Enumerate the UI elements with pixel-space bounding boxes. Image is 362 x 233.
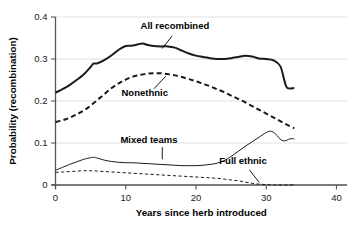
axis-titles-group: Years since herb introducedProbability (…	[7, 37, 267, 218]
y-tick-label-0_2: 0.2	[34, 95, 47, 106]
x-axis-title: Years since herb introduced	[136, 207, 267, 218]
y-tick-label-0_3: 0.3	[34, 53, 47, 64]
x-tick-label-30: 30	[261, 192, 272, 203]
x-tick-label-10: 10	[120, 192, 131, 203]
series-label-mixed-teams: Mixed teams	[120, 134, 177, 145]
tick-labels-group: 00.10.20.30.4010203040	[34, 11, 341, 202]
y-tick-label-0: 0	[42, 179, 47, 190]
y-axis-title: Probability (recombination)	[7, 37, 18, 164]
y-tick-label-0_4: 0.4	[34, 11, 47, 22]
recombination-probability-chart: 00.10.20.30.4010203040 All recombinedNon…	[0, 0, 362, 233]
gridlines-group	[56, 17, 348, 185]
series-label-nonethnic: Nonethnic	[121, 87, 167, 98]
leader-line-full-ethnic	[249, 170, 259, 183]
x-tick-label-40: 40	[331, 192, 342, 203]
series-label-full-ethnic: Full ethnic	[219, 155, 267, 166]
x-tick-label-0: 0	[53, 192, 58, 203]
series-line-all-recombined	[56, 43, 295, 92]
series-line-full-ethnic	[56, 171, 295, 185]
axes-group	[52, 17, 348, 189]
x-tick-label-20: 20	[191, 192, 202, 203]
chart-canvas: 00.10.20.30.4010203040 All recombinedNon…	[0, 0, 362, 233]
series-label-all-recombined: All recombined	[141, 20, 210, 31]
y-tick-label-0_1: 0.1	[34, 137, 47, 148]
series-labels-group: All recombinedNonethnicMixed teamsFull e…	[120, 20, 266, 167]
